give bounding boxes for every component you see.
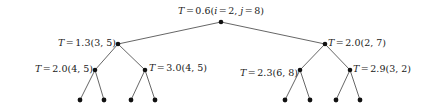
tree-edge	[95, 70, 104, 100]
tree-leaf-leaf-7[interactable]	[334, 98, 339, 103]
tree-node-n-left-left[interactable]	[93, 68, 98, 73]
tree-edge	[80, 70, 95, 100]
tree-leaf-leaf-5[interactable]	[283, 98, 288, 103]
tree-diagram-figure: T=0.6(i=2, j=8)T=1.3(3, 5)T=2.0(2, 7)T=2…	[0, 0, 442, 109]
tree-edge	[336, 70, 350, 100]
node-layer	[78, 20, 363, 103]
tree-edge	[118, 22, 221, 44]
node-label-root: T=0.6(i=2, j=8)	[178, 6, 264, 16]
tree-node-n-right-left[interactable]	[298, 68, 303, 73]
tree-edge	[118, 44, 145, 70]
tree-edge	[221, 22, 325, 44]
node-label-n-left-left: T=2.0(4, 5)	[35, 64, 93, 74]
node-label-n-right: T=2.0(2, 7)	[328, 38, 386, 48]
tree-leaf-leaf-1[interactable]	[78, 98, 83, 103]
tree-node-n-left[interactable]	[116, 42, 121, 47]
node-label-n-left-right: T=3.0(4, 5)	[149, 63, 207, 73]
tree-edge	[300, 70, 310, 100]
tree-leaf-leaf-4[interactable]	[153, 98, 158, 103]
node-label-n-left: T=1.3(3, 5)	[58, 38, 116, 48]
tree-leaf-leaf-8[interactable]	[358, 98, 363, 103]
tree-edge	[145, 70, 155, 100]
tree-edge	[300, 44, 325, 70]
tree-edge	[350, 70, 360, 100]
tree-leaf-leaf-2[interactable]	[102, 98, 107, 103]
edge-layer	[80, 22, 360, 100]
tree-edge	[131, 70, 145, 100]
tree-node-n-left-right[interactable]	[143, 68, 148, 73]
tree-leaf-leaf-3[interactable]	[129, 98, 134, 103]
tree-leaf-leaf-6[interactable]	[308, 98, 313, 103]
tree-node-n-right[interactable]	[323, 42, 328, 47]
node-label-n-right-left: T=2.3(6, 8)	[240, 68, 298, 78]
node-label-n-right-right: T=2.9(3, 2)	[353, 64, 411, 74]
tree-node-root[interactable]	[219, 20, 224, 25]
tree-graphics	[0, 0, 442, 109]
tree-node-n-right-right[interactable]	[348, 68, 353, 73]
